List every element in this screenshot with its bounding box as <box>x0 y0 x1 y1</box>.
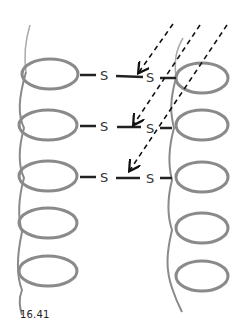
dashed-arrow <box>134 25 200 124</box>
dashed-arrow <box>139 24 173 72</box>
sulfur-atom-left: S <box>100 170 108 185</box>
right-helix-turn <box>176 261 228 291</box>
disulfide-helix-diagram: S S S S S S <box>0 0 247 335</box>
left-helix-turn <box>19 110 77 140</box>
right-helix-turn <box>176 162 228 192</box>
sulfur-atom-right: S <box>146 171 154 186</box>
sulfur-atom-right: S <box>146 121 154 136</box>
left-helix <box>18 25 78 315</box>
disulfide-bond <box>80 75 176 78</box>
right-helix <box>168 38 229 312</box>
disulfide-bond <box>80 126 172 128</box>
right-helix-turn <box>176 213 228 243</box>
left-helix-turn <box>22 59 78 89</box>
right-helix-turn <box>176 110 228 140</box>
left-helix-turn <box>19 256 77 286</box>
sulfur-atom-right: S <box>146 70 154 85</box>
figure-caption: 16.41 <box>20 309 50 320</box>
sulfur-atom-left: S <box>100 68 108 83</box>
sulfur-atom-left: S <box>100 119 108 134</box>
disulfide-bond <box>80 177 172 178</box>
left-helix-turn <box>19 208 77 238</box>
left-helix-turn <box>19 161 77 191</box>
